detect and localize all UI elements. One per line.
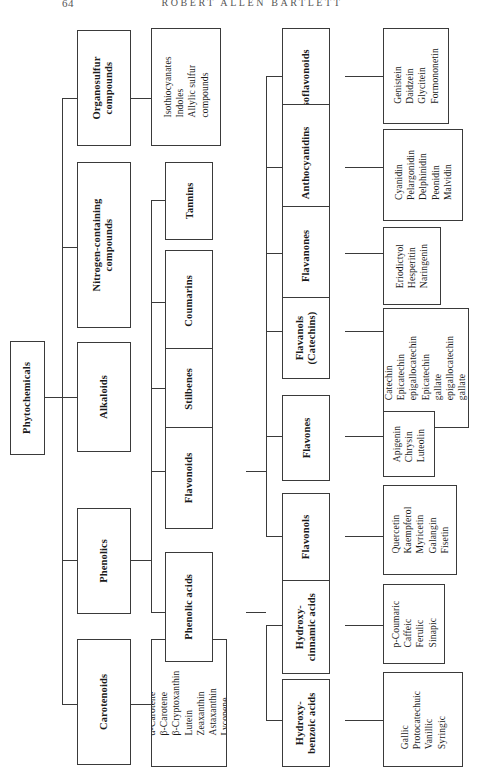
leaf-flavonol-items: Quercetin Kaempferol Myricetin Galangin … <box>383 485 457 575</box>
connector-to-flavonoids <box>151 471 165 472</box>
phytochemicals-tree-diagram: Phytochemicals Organosulfur compounds Ni… <box>0 14 504 769</box>
connector-flavanols-to-leaf <box>345 331 383 332</box>
node-flavonoids-label: Flavonoids <box>183 453 195 504</box>
node-phenolic-acids[interactable]: Phenolic acids <box>165 552 213 662</box>
node-hydroxybenzoic-line2: benzoic acids <box>306 692 317 753</box>
leaf-flavanone-items-list: Eriodictyol Hesperitin Naringenin <box>394 244 431 288</box>
node-coumarins[interactable]: Coumarins <box>165 250 213 352</box>
node-phytochemicals[interactable]: Phytochemicals <box>10 341 45 455</box>
connector-flavonoids-stem <box>246 471 266 472</box>
node-anthocyanidins-label: Anthocyanidins <box>300 127 312 200</box>
connector-root-stem <box>45 397 63 398</box>
node-flavonols-label: Flavonols <box>300 515 312 560</box>
leaf-flavonol-items-list: Quercetin Kaempferol Myricetin Galangin … <box>390 507 451 554</box>
leaf-flavanol-items: Catechin Epicatechin epigallocatechin Ep… <box>383 308 469 428</box>
connector-to-flavones <box>266 436 282 437</box>
node-flavanones[interactable]: Flavanones <box>282 206 330 306</box>
node-hydroxycinnamic-acids[interactable]: Hydroxy- cinnamic acids <box>282 580 330 674</box>
connector-to-tannins <box>151 200 165 201</box>
node-alkaloids[interactable]: Alkaloids <box>77 342 131 452</box>
node-flavones[interactable]: Flavones <box>282 395 330 481</box>
connector-organosulfur-to-leaf <box>131 98 151 99</box>
connector-to-anthocyanidins <box>266 167 282 168</box>
connector-flavanones-to-leaf <box>345 253 383 254</box>
connector-to-flavonols <box>266 536 282 537</box>
node-tannins[interactable]: Tannins <box>165 162 213 240</box>
node-anthocyanidins[interactable]: Anthocyanidins <box>282 104 330 222</box>
leaf-carotenoid-items-list: α-Carotene β-Carotene β-Cryptoxanthin Lu… <box>151 670 227 735</box>
connector-carotenoids-to-leaf <box>131 704 151 705</box>
node-flavanones-label: Flavanones <box>300 230 312 282</box>
node-alkaloids-label: Alkaloids <box>98 375 110 419</box>
book-author-running-head: ROBERT ALLEN BARTLETT <box>0 0 504 8</box>
connector-to-alkaloids <box>62 397 77 398</box>
node-organosulfur-line1: Organosulfur <box>92 56 103 119</box>
connector-hydroxybenzoic-to-leaf <box>345 720 383 721</box>
node-hydroxybenzoic-acids[interactable]: Hydroxy- benzoic acids <box>282 679 330 767</box>
connector-anthocyanidins-to-leaf <box>345 167 383 168</box>
node-tannins-label: Tannins <box>183 183 195 220</box>
node-flavanols-catechins[interactable]: Flavanols (Catechins) <box>282 297 330 379</box>
node-nitrogen-containing-compounds[interactable]: Nitrogen-containing compounds <box>77 162 131 328</box>
connector-to-carotenoids <box>62 704 77 705</box>
connector-phenolic-acids-stem <box>246 612 266 613</box>
leaf-anthocyanidin-items-list: Cyanidin Pelargonidin Delphinidin Peonid… <box>393 150 454 200</box>
leaf-flavone-items: Apigenin Chrysin Luteolin <box>383 411 435 477</box>
node-carotenoids[interactable]: Carotenoids <box>77 639 131 765</box>
connector-spine-level2 <box>151 200 152 612</box>
leaf-isoflavonoid-items: Genistein Daidzein Glycitein Formononeti… <box>383 28 449 124</box>
node-flavanols-line1: Flavanols <box>294 316 305 361</box>
node-nitrogen-line2: compounds <box>104 219 115 272</box>
leaf-hydroxycinnamic-items: p-Coumaric Caffeic Ferulic Sinapic <box>383 584 445 664</box>
node-stilbenes-label: Stilbenes <box>183 368 195 410</box>
node-hydroxybenzoic-line1: Hydroxy- <box>294 701 305 745</box>
leaf-hydroxybenzoic-items-list: Gallic Protocatechuic Vanillic Syringic <box>399 690 448 748</box>
connector-isoflavonoids-to-leaf <box>345 76 383 77</box>
node-flavonols[interactable]: Flavonols <box>282 493 330 581</box>
connector-flavones-to-leaf <box>345 436 383 437</box>
connector-to-phenolics <box>62 560 77 561</box>
connector-spine-level1 <box>62 98 63 704</box>
connector-flavonols-to-leaf <box>345 536 383 537</box>
leaf-organosulfur-items: Isothiocyanates Indoles Allylic sulfur c… <box>151 28 221 146</box>
node-phenolics[interactable]: Phenolics <box>77 508 131 614</box>
connector-to-phenolic-acids <box>151 612 165 613</box>
connector-to-organosulfur <box>62 98 77 99</box>
connector-to-flavanones <box>266 253 282 254</box>
node-flavanols-line2: (Catechins) <box>306 312 317 365</box>
running-head: 64 ROBERT ALLEN BARTLETT <box>0 0 504 14</box>
connector-to-flavanols <box>266 331 282 332</box>
node-hydroxycinnamic-line2: cinnamic acids <box>306 593 317 661</box>
node-organosulfur-line2: compounds <box>104 62 115 115</box>
node-coumarins-label: Coumarins <box>183 275 195 327</box>
leaf-hydroxycinnamic-items-list: p-Coumaric Caffeic Ferulic Sinapic <box>390 601 439 648</box>
connector-to-stilbenes <box>151 388 165 389</box>
node-stilbenes[interactable]: Stilbenes <box>165 348 213 430</box>
leaf-anthocyanidin-items: Cyanidin Pelargonidin Delphinidin Peonid… <box>383 129 463 221</box>
node-phenolic-acids-label: Phenolic acids <box>183 574 195 640</box>
node-carotenoids-label: Carotenoids <box>98 674 110 730</box>
node-flavonoids[interactable]: Flavonoids <box>165 427 213 529</box>
node-organosulfur-compounds[interactable]: Organosulfur compounds <box>77 30 131 146</box>
node-phytochemicals-label: Phytochemicals <box>22 362 34 434</box>
node-phenolics-label: Phenolics <box>98 539 110 583</box>
leaf-flavanone-items: Eriodictyol Hesperitin Naringenin <box>383 227 441 305</box>
connector-spine-flavonoid-children <box>266 76 267 536</box>
connector-to-isoflavonoids <box>266 76 282 77</box>
leaf-flavanol-items-list: Catechin Epicatechin epigallocatechin Ep… <box>383 336 468 400</box>
node-isoflavonoids-label: Isoflavonoids <box>300 49 312 110</box>
connector-to-hydroxybenzoic <box>266 720 282 721</box>
leaf-hydroxybenzoic-items: Gallic Protocatechuic Vanillic Syringic <box>383 672 463 767</box>
connector-to-coumarins <box>151 302 165 303</box>
node-nitrogen-line1: Nitrogen-containing <box>92 198 103 291</box>
leaf-flavone-items-list: Apigenin Chrysin Luteolin <box>391 426 428 463</box>
node-flavones-label: Flavones <box>300 418 312 459</box>
node-hydroxycinnamic-line1: Hydroxy- <box>294 605 305 649</box>
connector-to-hydroxycinnamic <box>266 625 282 626</box>
leaf-organosulfur-items-list: Isothiocyanates Indoles Allylic sulfur c… <box>162 56 211 117</box>
connector-phenolics-stem <box>131 560 151 561</box>
connector-hydroxycinnamic-to-leaf <box>345 625 383 626</box>
connector-to-nitrogen <box>62 247 77 248</box>
leaf-isoflavonoid-items-list: Genistein Daidzein Glycitein Formononeti… <box>392 48 441 104</box>
connector-spine-phenolic-acid-children <box>266 625 267 720</box>
